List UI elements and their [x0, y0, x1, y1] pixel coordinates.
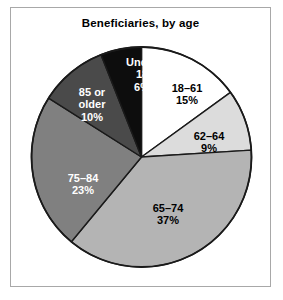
pie-chart-svg: [11, 8, 272, 288]
pie-slice-group: [31, 47, 251, 267]
pie-chart: 18–6115%62–649%65–7437%75–8423%85 orolde…: [11, 8, 272, 288]
chart-figure-frame: Beneficiaries, by age 18–6115%62–649%65–…: [10, 7, 271, 287]
